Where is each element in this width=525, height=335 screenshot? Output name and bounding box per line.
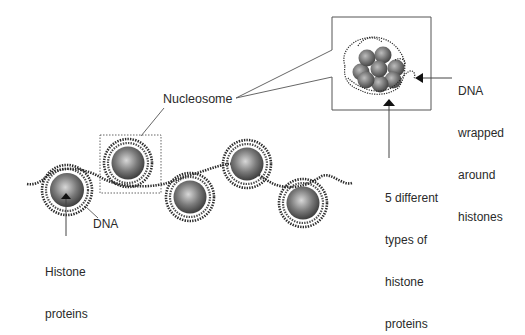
dna-wrapped-line-3: around	[458, 168, 504, 182]
dna-wrapped-line-1: DNA	[458, 84, 504, 98]
five-types-line-2: types of	[385, 233, 438, 247]
dna-wrapped-line-2: wrapped	[458, 126, 504, 140]
dna-wrapped-line-4: histones	[458, 210, 504, 224]
histone-proteins-line-2: proteins	[45, 307, 88, 321]
dna-label: DNA	[93, 217, 118, 231]
histone-proteins-line-1: Histone	[45, 265, 88, 279]
dna-wrapped-arrowhead-icon	[415, 73, 423, 83]
five-types-line-1: 5 different	[385, 191, 438, 205]
histone-proteins-label: Histone proteins	[45, 237, 88, 335]
nucleosome-2	[104, 139, 152, 187]
five-types-line-4: proteins	[385, 317, 438, 331]
nucleosome-3	[166, 173, 214, 221]
five-types-line-3: histone	[385, 275, 438, 289]
five-types-arrowhead-icon	[383, 99, 395, 106]
histone-octamer	[344, 37, 415, 94]
zoom-callout-lines	[236, 50, 332, 98]
nucleosome-label: Nucleosome	[163, 92, 232, 106]
nucleosome-1	[42, 165, 92, 215]
nucleosome-leader-line	[141, 108, 164, 136]
dna-wrapped-label: DNA wrapped around histones	[458, 56, 504, 238]
five-types-label: 5 different types of histone proteins	[385, 163, 438, 335]
